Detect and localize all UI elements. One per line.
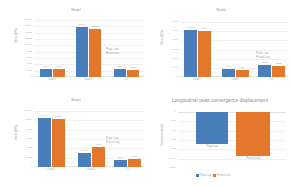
chart-title: Model — [152, 8, 290, 12]
x-axis-label: C3 — [124, 79, 127, 82]
bar-value-label: 15320 — [92, 26, 99, 29]
x-axis-label: Case1 — [193, 79, 201, 82]
x-axis-label: Case1 — [48, 79, 56, 82]
legend-item-blue[interactable]: Proje.Loq — [196, 174, 211, 177]
legend: Proje.Loq Proces.Loq — [196, 174, 230, 177]
bar-value-label: 2604 — [43, 66, 49, 69]
plot-area: Proje.Loq Proces.Loq — [178, 112, 286, 168]
bar-series-blue[interactable] — [114, 69, 126, 77]
bar-series-orange[interactable] — [272, 66, 285, 77]
legend-label: Proje.Loq — [200, 174, 212, 177]
bar-series-orange[interactable] — [52, 119, 65, 167]
bar-series-orange[interactable] — [127, 70, 139, 77]
bar-series-orange[interactable] — [198, 31, 211, 77]
bar-group: 5102 5004 Case1 — [182, 22, 214, 77]
bar-group: 3013 4317 Case2 — [76, 111, 108, 167]
y-axis-ticks: 12000 10000 8000 6000 4000 2000 0 — [18, 111, 32, 167]
bar-value-label: 10212 — [55, 116, 62, 119]
bar-series-orange[interactable] — [89, 29, 101, 77]
chart-title: Model — [6, 98, 146, 102]
x-axis-label: Case1 — [47, 169, 55, 172]
bar-series-blue[interactable] — [114, 160, 127, 168]
bar-value-label: 2218 — [130, 67, 136, 70]
legend: Proje. Loq Proces.Loq — [256, 52, 270, 59]
bar-series-blue[interactable] — [38, 118, 51, 167]
plot-area: 10406 10212 Case1 3013 4317 Case2 1604 1… — [34, 111, 144, 167]
chart-bottom-right: Longitudinal peak convergence displaceme… — [150, 95, 290, 183]
chart-bottom-left: Model Stress (MPa) 12000 10000 8000 6000… — [6, 95, 146, 183]
x-axis-label: Case2 — [84, 79, 92, 82]
bar-value-label: 1202 — [276, 63, 282, 66]
legend-item-orange[interactable]: Bases.Loq — [106, 52, 119, 56]
y-axis-ticks: 18000 16000 14000 12000 10000 8000 6000 … — [18, 20, 32, 77]
bar-series-blue[interactable] — [196, 112, 228, 144]
bar-value-label: 5004 — [202, 28, 208, 31]
legend-swatch-blue-icon — [196, 174, 199, 177]
bar-series-blue[interactable] — [222, 69, 235, 77]
bar-value-label: 1348 — [262, 62, 268, 65]
bar-value-label: 1604 — [118, 157, 124, 160]
bar-value-label: 801 — [240, 67, 244, 70]
x-axis-label: Case2 — [231, 79, 239, 82]
bar-value-label: 10406 — [41, 115, 48, 118]
bar-group: 15943 15320 Case2 — [74, 20, 104, 77]
legend-item-orange[interactable]: Proces.Loq — [256, 56, 270, 60]
bar-series-blue[interactable] — [258, 65, 271, 77]
legend-item-orange[interactable]: Proces.Loq — [106, 141, 120, 145]
bar-value-label: 15943 — [79, 24, 86, 27]
bar-value-label: 2507 — [117, 66, 123, 69]
bar-series-blue[interactable] — [40, 69, 52, 77]
bar-series-orange[interactable] — [128, 159, 141, 167]
bar-group: 2604 2402 Case1 — [38, 20, 66, 77]
x-axis-label: Case2 — [87, 169, 95, 172]
legend-item-orange[interactable]: Proces.Loq — [213, 174, 230, 177]
bar-group: 1348 1202 C3 — [256, 22, 288, 77]
bar-group: 10406 10212 Case1 — [36, 111, 68, 167]
bar-category-label: Proje.Loq — [206, 145, 218, 148]
legend-label: Proces.Loq — [217, 174, 231, 177]
bar-series-orange[interactable] — [92, 147, 105, 167]
bar-group: 896 801 Case2 — [220, 22, 252, 77]
y-axis-ticks: 0 -2.00 -4.00 -6.00 -8.00 -10.00 -12.00 — [162, 112, 176, 168]
bar-value-label: 3013 — [82, 150, 88, 153]
bar-series-orange[interactable] — [53, 69, 65, 77]
chart-top-left: Model Stress (MPa) 18000 16000 14000 120… — [6, 4, 146, 93]
x-axis-label: C3 — [125, 169, 128, 172]
bar-value-label: 2402 — [56, 66, 62, 69]
y-axis-ticks: 6000 5000 4000 3000 2000 1000 0 — [164, 22, 178, 77]
chart-title: Model — [6, 8, 146, 12]
x-axis-label: C3 — [269, 79, 272, 82]
plot-area: 2604 2402 Case1 15943 15320 Case2 2507 2… — [34, 20, 144, 77]
legend-swatch-orange-icon — [213, 174, 216, 177]
bar-series-blue[interactable] — [184, 30, 197, 77]
bar-series-orange[interactable] — [236, 70, 249, 77]
bar-value-label: 5102 — [188, 27, 194, 30]
chart-title: Longitudinal peak convergence displaceme… — [150, 98, 290, 103]
bar-series-blue[interactable] — [78, 153, 91, 167]
plot-area: 5102 5004 Case1 896 801 Case2 1348 1202 … — [180, 22, 288, 77]
charts-sheet: Model Stress (MPa) 18000 16000 14000 120… — [0, 0, 292, 186]
bar-series-blue[interactable] — [76, 27, 88, 77]
legend: Proje. Loq Proces.Loq — [106, 137, 120, 144]
bar-value-label: 896 — [226, 66, 230, 69]
bar-value-label: 1808 — [132, 156, 138, 159]
bar-series-orange[interactable] — [236, 112, 270, 156]
bar-category-label: Proces.Loq — [246, 157, 260, 160]
legend: Proje. Loq Bases.Loq — [106, 48, 119, 55]
bar-value-label: 4317 — [96, 144, 102, 147]
chart-top-right: Model Stress (MPa) 6000 5000 4000 3000 2… — [152, 4, 290, 93]
